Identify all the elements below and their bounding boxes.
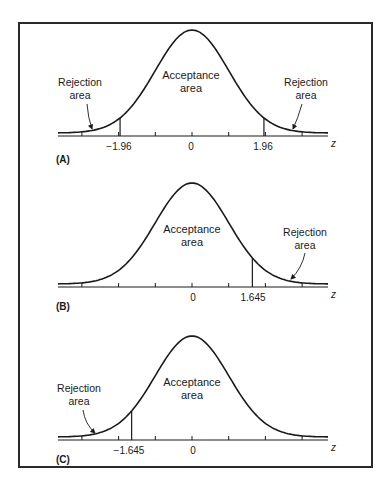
rejection-left-label-line1: Rejection <box>58 76 102 88</box>
z-axis-label: z <box>330 289 336 300</box>
panel-c-left-tailed: −1.645 0 z (C) Acceptance area Rejection… <box>56 336 336 465</box>
rejection-right-label-line1: Rejection <box>284 76 328 88</box>
rejection-right-arrow <box>291 253 305 279</box>
panel-a-two-tailed: −1.96 0 1.96 z (A) Acceptance area Rejec… <box>56 30 336 165</box>
normal-distribution-figure: −1.96 0 1.96 z (A) Acceptance area Rejec… <box>0 0 391 486</box>
tick-label-neg-1-96: −1.96 <box>106 141 132 152</box>
acceptance-label-line2: area <box>181 236 204 248</box>
rejection-right-label-line2: area <box>294 239 315 251</box>
panel-label-b: (B) <box>56 301 70 312</box>
rejection-right-arrow <box>293 104 302 129</box>
panel-b-right-tailed: 0 1.645 z (B) Acceptance area Rejection … <box>56 183 336 312</box>
rejection-right-label-line2: area <box>295 89 316 101</box>
acceptance-label-line2: area <box>181 389 204 401</box>
panel-label-c: (C) <box>56 454 70 465</box>
rejection-left-label-line2: area <box>68 395 89 407</box>
tick-label-neg-1-645: −1.645 <box>114 445 145 456</box>
tick-label-zero: 0 <box>190 445 196 456</box>
panel-label-a: (A) <box>56 154 70 165</box>
z-axis-label: z <box>330 138 336 149</box>
rejection-left-arrow <box>83 410 95 433</box>
rejection-right-label-line1: Rejection <box>283 226 327 238</box>
tick-label-zero: 0 <box>190 292 196 303</box>
acceptance-label-line2: area <box>180 82 203 94</box>
acceptance-label-line1: Acceptance <box>163 223 220 235</box>
z-axis-label: z <box>330 442 336 453</box>
acceptance-label-line1: Acceptance <box>163 376 220 388</box>
tick-label-1-96: 1.96 <box>253 141 273 152</box>
rejection-left-label-line2: area <box>69 89 90 101</box>
tick-label-zero: 0 <box>188 141 194 152</box>
acceptance-label-line1: Acceptance <box>162 69 219 81</box>
rejection-left-label-line1: Rejection <box>57 382 101 394</box>
tick-label-1-645: 1.645 <box>240 292 265 303</box>
rejection-left-arrow <box>87 104 92 129</box>
